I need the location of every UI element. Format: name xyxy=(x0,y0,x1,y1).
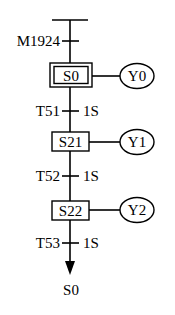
action-label-y0: Y0 xyxy=(128,68,146,84)
transition-label-t52: T52 xyxy=(36,168,60,184)
action-y2: Y2 xyxy=(120,198,154,223)
step-s22: S22 xyxy=(52,201,89,220)
action-label-y1: Y1 xyxy=(128,134,146,150)
transition-time-t51: 1S xyxy=(83,103,99,119)
transition-label-m1924: M1924 xyxy=(17,33,61,49)
step-s21: S21 xyxy=(52,132,89,151)
step-label-s21: S21 xyxy=(59,134,82,150)
step-label-s0: S0 xyxy=(63,68,79,84)
action-y1: Y1 xyxy=(120,130,154,155)
transition-label-t53: T53 xyxy=(36,235,60,251)
action-y0: Y0 xyxy=(120,64,154,89)
step-s0: S0 xyxy=(50,63,92,87)
transition-time-t52: 1S xyxy=(83,168,99,184)
action-label-y2: Y2 xyxy=(128,202,146,218)
arrow-down-icon xyxy=(65,261,75,275)
jump-target-label: S0 xyxy=(63,282,79,298)
step-label-s22: S22 xyxy=(59,203,82,219)
transition-time-t53: 1S xyxy=(83,235,99,251)
transition-label-t51: T51 xyxy=(36,103,60,119)
sfc-diagram: M1924 S0 Y0 T51 1S S21 Y1 T52 1S S22 Y2 … xyxy=(0,0,175,315)
